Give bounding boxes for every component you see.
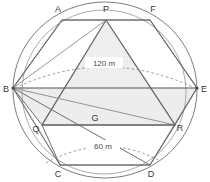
vertex-label-c: C <box>55 169 62 179</box>
dimension-label-120: 120 m <box>93 59 116 68</box>
shaded-region-band <box>13 88 197 125</box>
vertex-label-d: D <box>148 169 155 179</box>
vertex-label-r: R <box>177 123 184 133</box>
vertex-label-q: Q <box>32 124 39 134</box>
vertex-dot-b <box>11 86 14 89</box>
vertex-label-f: F <box>150 4 156 14</box>
vertex-label-g: G <box>91 113 98 123</box>
vertex-dot-e <box>195 86 198 89</box>
vertex-label-a: A <box>55 4 61 14</box>
vertex-label-p: P <box>103 4 109 14</box>
vertex-label-b: B <box>3 84 9 94</box>
vertex-label-e: E <box>201 84 207 94</box>
dimension-label-60: 60 m <box>94 142 112 151</box>
geometry-diagram: 120 m 60 m A P F B E Q G R C D <box>0 0 210 182</box>
chord-qc <box>42 125 60 165</box>
chord-ef <box>150 20 197 88</box>
